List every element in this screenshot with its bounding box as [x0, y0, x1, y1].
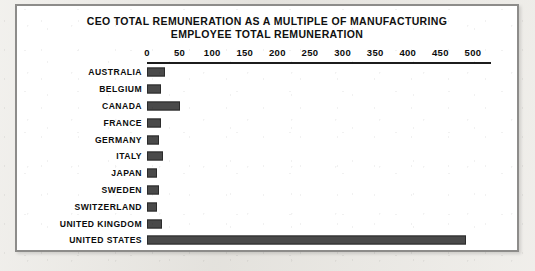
category-label-slot: AUSTRALIA [17, 64, 147, 81]
category-label-france: FRANCE [103, 118, 147, 128]
x-tick-label-500: 500 [465, 47, 482, 58]
x-tick-label-100: 100 [204, 47, 221, 58]
x-tick-label-350: 350 [367, 47, 384, 58]
x-tick-label-200: 200 [269, 47, 286, 58]
bar-united-states [147, 236, 466, 245]
category-label-slot: SWITZERLAND [17, 198, 147, 215]
bar-row: JAPAN [17, 165, 517, 182]
bar-belgium [147, 85, 161, 94]
category-label-slot: GERMANY [17, 131, 147, 148]
bar-row: UNITED STATES [17, 232, 517, 249]
category-label-slot: BELGIUM [17, 81, 147, 98]
x-tick-label-0: 0 [144, 47, 150, 58]
category-label-japan: JAPAN [111, 168, 147, 178]
x-tick-label-150: 150 [236, 47, 253, 58]
category-label-slot: ITALY [17, 148, 147, 165]
chart-frame: CEO TOTAL REMUNERATION AS A MULTIPLE OF … [15, 4, 519, 252]
bar-row: SWITZERLAND [17, 198, 517, 215]
bar-switzerland [147, 202, 157, 211]
chart-title: CEO TOTAL REMUNERATION AS A MULTIPLE OF … [17, 15, 517, 41]
category-label-italy: ITALY [116, 151, 147, 161]
x-axis-tick-labels: 050100150200250300350400450500 [17, 47, 517, 60]
category-label-belgium: BELGIUM [99, 84, 147, 94]
category-label-slot: SWEDEN [17, 182, 147, 199]
bar-canada [147, 101, 180, 110]
category-label-united-states: UNITED STATES [69, 235, 147, 245]
bar-row: AUSTRALIA [17, 64, 517, 81]
category-label-canada: CANADA [102, 101, 147, 111]
bar-row: SWEDEN [17, 182, 517, 199]
bar-row: CANADA [17, 98, 517, 115]
bar-row: GERMANY [17, 131, 517, 148]
bar-row: UNITED KINGDOM [17, 215, 517, 232]
bar-australia [147, 68, 165, 77]
bar-sweden [147, 185, 159, 194]
category-label-slot: UNITED KINGDOM [17, 215, 147, 232]
x-tick-label-250: 250 [302, 47, 319, 58]
category-label-australia: AUSTRALIA [88, 67, 147, 77]
x-tick-label-450: 450 [432, 47, 449, 58]
bar-germany [147, 135, 159, 144]
bar-united-kingdom [147, 219, 162, 228]
x-tick-label-300: 300 [334, 47, 351, 58]
scan-page-background: CEO TOTAL REMUNERATION AS A MULTIPLE OF … [0, 0, 535, 271]
bar-row: BELGIUM [17, 81, 517, 98]
category-label-slot: FRANCE [17, 114, 147, 131]
category-label-slot: UNITED STATES [17, 232, 147, 249]
chart-title-line-1: CEO TOTAL REMUNERATION AS A MULTIPLE OF … [17, 15, 517, 28]
chart-title-line-2: EMPLOYEE TOTAL REMUNERATION [17, 28, 517, 41]
category-label-germany: GERMANY [95, 135, 147, 145]
category-label-switzerland: SWITZERLAND [75, 202, 148, 212]
x-tick-label-50: 50 [174, 47, 185, 58]
category-label-united-kingdom: UNITED KINGDOM [60, 219, 147, 229]
category-label-slot: JAPAN [17, 165, 147, 182]
bar-row: FRANCE [17, 114, 517, 131]
x-tick-label-400: 400 [399, 47, 416, 58]
bar-rows: AUSTRALIABELGIUMCANADAFRANCEGERMANYITALY… [17, 64, 517, 249]
chart-inner: CEO TOTAL REMUNERATION AS A MULTIPLE OF … [17, 6, 517, 250]
bar-italy [147, 152, 163, 161]
bar-row: ITALY [17, 148, 517, 165]
bar-france [147, 118, 161, 127]
category-label-sweden: SWEDEN [102, 185, 147, 195]
category-label-slot: CANADA [17, 98, 147, 115]
bar-japan [147, 169, 157, 178]
